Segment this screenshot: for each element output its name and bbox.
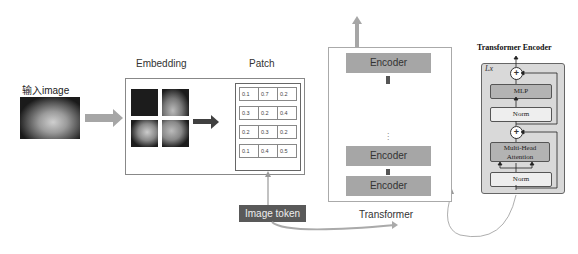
- te-arrows: [0, 0, 578, 254]
